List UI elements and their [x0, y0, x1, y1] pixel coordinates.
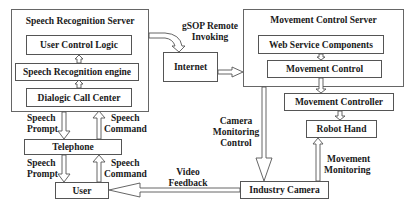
arrow-icon — [58, 155, 70, 182]
arrow-icon — [58, 112, 70, 139]
arrow-icon — [313, 138, 323, 181]
arrow-icon — [316, 78, 326, 93]
arrow-icon — [75, 55, 83, 63]
arrow-icon — [218, 67, 243, 77]
speech-prompt-label-2: Speech Prompt — [27, 158, 58, 180]
arrow-icon — [335, 111, 345, 120]
speech-prompt-label-1: Speech Prompt — [27, 113, 58, 135]
speech-command-label-1: Speech Command — [104, 113, 147, 135]
camera-monitoring-control-label: Camera Monitoring Control — [208, 116, 264, 149]
speech-command-label-2: Speech Command — [104, 158, 147, 180]
arrow-icon — [75, 80, 83, 88]
video-feedback-label: Video Feedback — [160, 167, 216, 189]
arrow-icon — [317, 54, 325, 60]
movement-monitoring-label: Movement Monitoring — [324, 154, 370, 176]
gsop-remote-invoking-label: gSOP Remote Invoking — [170, 21, 250, 43]
